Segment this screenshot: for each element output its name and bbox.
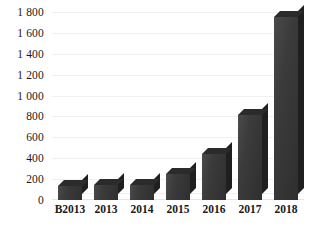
bar[interactable]	[238, 115, 262, 200]
y-axis: 02004006008001 0001 2001 4001 6001 800	[0, 0, 48, 231]
x-axis: B2013201320142015201620172018	[52, 203, 304, 223]
x-axis-tick-label: 2018	[275, 203, 298, 215]
x-axis-tick-label: 2015	[167, 203, 190, 215]
y-axis-tick-label: 1 800	[17, 6, 44, 18]
x-axis-tick-label: B2013	[55, 203, 86, 215]
y-axis-tick-label: 400	[26, 152, 44, 164]
y-axis-tick-label: 1 000	[17, 90, 44, 102]
bar[interactable]	[166, 174, 190, 200]
bar-chart: 02004006008001 0001 2001 4001 6001 800 B…	[0, 0, 309, 231]
bar[interactable]	[202, 154, 226, 200]
bar-side-face	[262, 103, 268, 194]
plot-area	[52, 12, 304, 200]
y-axis-tick-label: 800	[26, 110, 44, 122]
y-axis-tick-label: 1 200	[17, 69, 44, 81]
bar-side-face	[190, 162, 196, 194]
y-axis-tick-label: 1 400	[17, 48, 44, 60]
bar[interactable]	[274, 17, 298, 200]
x-axis-tick-label: 2016	[203, 203, 226, 215]
bar-side-face	[298, 5, 304, 194]
x-axis-tick-label: 2013	[95, 203, 118, 215]
x-axis-tick-label: 2014	[131, 203, 154, 215]
bar[interactable]	[58, 186, 82, 200]
y-axis-tick-label: 200	[26, 173, 44, 185]
y-axis-tick-label: 1 600	[17, 27, 44, 39]
bar[interactable]	[130, 185, 154, 200]
bar[interactable]	[94, 185, 118, 200]
y-axis-tick-label: 600	[26, 131, 44, 143]
bar-series	[52, 12, 304, 200]
x-axis-tick-label: 2017	[239, 203, 262, 215]
y-axis-tick-label: 0	[38, 194, 44, 206]
